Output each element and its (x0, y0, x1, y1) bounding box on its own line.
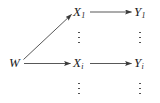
dot (139, 37, 140, 38)
node-w: W (9, 56, 20, 69)
node-x1-subscript: 1 (81, 11, 85, 20)
dot (139, 42, 140, 43)
dot (78, 37, 79, 38)
vertical-ellipsis-icon-x-middle (76, 32, 82, 43)
vertical-ellipsis-icon-y-bottom (137, 83, 143, 94)
dot (78, 42, 79, 43)
node-xi-subscript: i (81, 62, 83, 71)
node-yi-subscript: i (142, 62, 144, 71)
node-y1-base: Y (134, 4, 141, 19)
dot (139, 32, 140, 33)
node-x1: X1 (73, 5, 85, 20)
dot (139, 93, 140, 94)
dot (78, 83, 79, 84)
dot (139, 88, 140, 89)
dot (78, 32, 79, 33)
node-w-base: W (9, 55, 20, 70)
node-x1-base: X (73, 4, 81, 19)
node-yi-base: Y (134, 55, 141, 70)
dot (139, 83, 140, 84)
edge-w-to-x1 (24, 15, 72, 60)
node-xi: Xi (73, 56, 83, 71)
vertical-ellipsis-icon-x-bottom (76, 83, 82, 94)
node-y1-subscript: 1 (142, 11, 146, 20)
dot (78, 93, 79, 94)
node-yi: Yi (134, 56, 144, 71)
node-xi-base: X (73, 55, 81, 70)
node-y1: Y1 (134, 5, 146, 20)
diagram-canvas: W X1 Xi Y1 Yi (0, 0, 160, 103)
dot (78, 88, 79, 89)
vertical-ellipsis-icon-y-middle (137, 32, 143, 43)
